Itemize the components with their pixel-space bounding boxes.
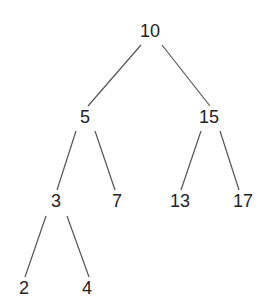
edge-3-4 — [67, 216, 89, 277]
node-15: 15 — [199, 108, 219, 126]
edge-15-17 — [220, 131, 239, 190]
node-3: 3 — [51, 192, 61, 210]
edge-10-5 — [88, 45, 141, 106]
node-7: 7 — [112, 192, 122, 210]
tree-diagram: 10 5 15 3 7 13 17 2 4 — [0, 0, 272, 308]
tree-edges — [0, 0, 272, 308]
node-4: 4 — [82, 279, 92, 297]
node-5: 5 — [80, 108, 90, 126]
node-2: 2 — [19, 279, 29, 297]
edge-15-13 — [181, 131, 201, 190]
node-13: 13 — [170, 192, 190, 210]
node-17: 17 — [233, 192, 253, 210]
edge-3-2 — [25, 216, 46, 277]
edge-5-3 — [57, 131, 76, 190]
edge-10-15 — [162, 45, 210, 106]
edge-5-7 — [95, 131, 115, 190]
node-10: 10 — [140, 22, 160, 40]
